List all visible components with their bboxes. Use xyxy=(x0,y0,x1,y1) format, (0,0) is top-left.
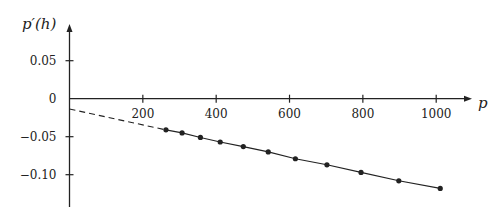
y-tick-label: −0.10 xyxy=(20,168,57,182)
y-axis-arrow-icon xyxy=(67,24,73,32)
data-point-marker xyxy=(163,127,168,132)
y-tick-label: 0.05 xyxy=(30,54,57,68)
data-point-marker xyxy=(241,144,246,149)
data-point-marker xyxy=(396,178,401,183)
series xyxy=(70,109,443,191)
x-tick-label: 200 xyxy=(131,107,154,121)
x-axis-title: p xyxy=(478,94,488,112)
chart: 20040060080010000.050−0.05−0.10p′(h)p xyxy=(0,0,496,217)
x-axis-arrow-icon xyxy=(464,96,472,102)
y-tick-label: 0 xyxy=(49,92,57,106)
data-point-marker xyxy=(179,130,184,135)
x-tick-label: 800 xyxy=(351,107,374,121)
y-axis-title: p′(h) xyxy=(22,15,57,33)
data-point-marker xyxy=(438,186,443,191)
data-point-marker xyxy=(324,162,329,167)
y-tick-label: −0.05 xyxy=(20,130,57,144)
data-point-marker xyxy=(198,135,203,140)
axes xyxy=(66,24,473,207)
data-point-marker xyxy=(293,156,298,161)
data-point-marker xyxy=(358,170,363,175)
x-tick-label: 600 xyxy=(278,107,301,121)
data-point-marker xyxy=(266,149,271,154)
x-tick-label: 400 xyxy=(205,107,228,121)
x-tick-label: 1000 xyxy=(421,107,452,121)
data-point-marker xyxy=(218,139,223,144)
